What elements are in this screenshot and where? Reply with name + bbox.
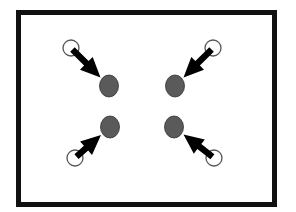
- marker-bottom-right: [165, 116, 223, 166]
- diagram-canvas: [0, 0, 296, 212]
- marker-bottom-left: [67, 116, 120, 166]
- frame-border: [19, 13, 275, 205]
- arrow-icon: [184, 134, 215, 159]
- target-dot-icon: [101, 116, 120, 138]
- target-dot-icon: [165, 116, 184, 138]
- arrow-icon: [184, 47, 214, 77]
- marker-top-right: [166, 40, 222, 97]
- target-dot-icon: [166, 75, 185, 97]
- marker-top-left: [63, 40, 119, 97]
- arrow-icon: [70, 47, 100, 77]
- arrow-icon: [74, 135, 101, 159]
- target-dot-icon: [100, 75, 119, 97]
- marker-group: [63, 40, 222, 166]
